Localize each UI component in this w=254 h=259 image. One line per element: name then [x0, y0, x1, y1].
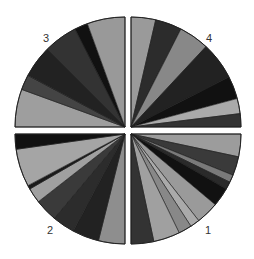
quadrant-label-1: 1 — [205, 224, 211, 236]
quadrant-2 — [15, 134, 125, 244]
quadrant-label-4: 4 — [206, 32, 212, 44]
quadrant-label-3: 3 — [43, 32, 49, 44]
pie-chart — [0, 0, 254, 259]
quadrant-3 — [15, 17, 125, 127]
quadrant-4 — [131, 17, 241, 127]
quadrant-label-2: 2 — [47, 224, 53, 236]
quadrant-1 — [131, 134, 241, 244]
